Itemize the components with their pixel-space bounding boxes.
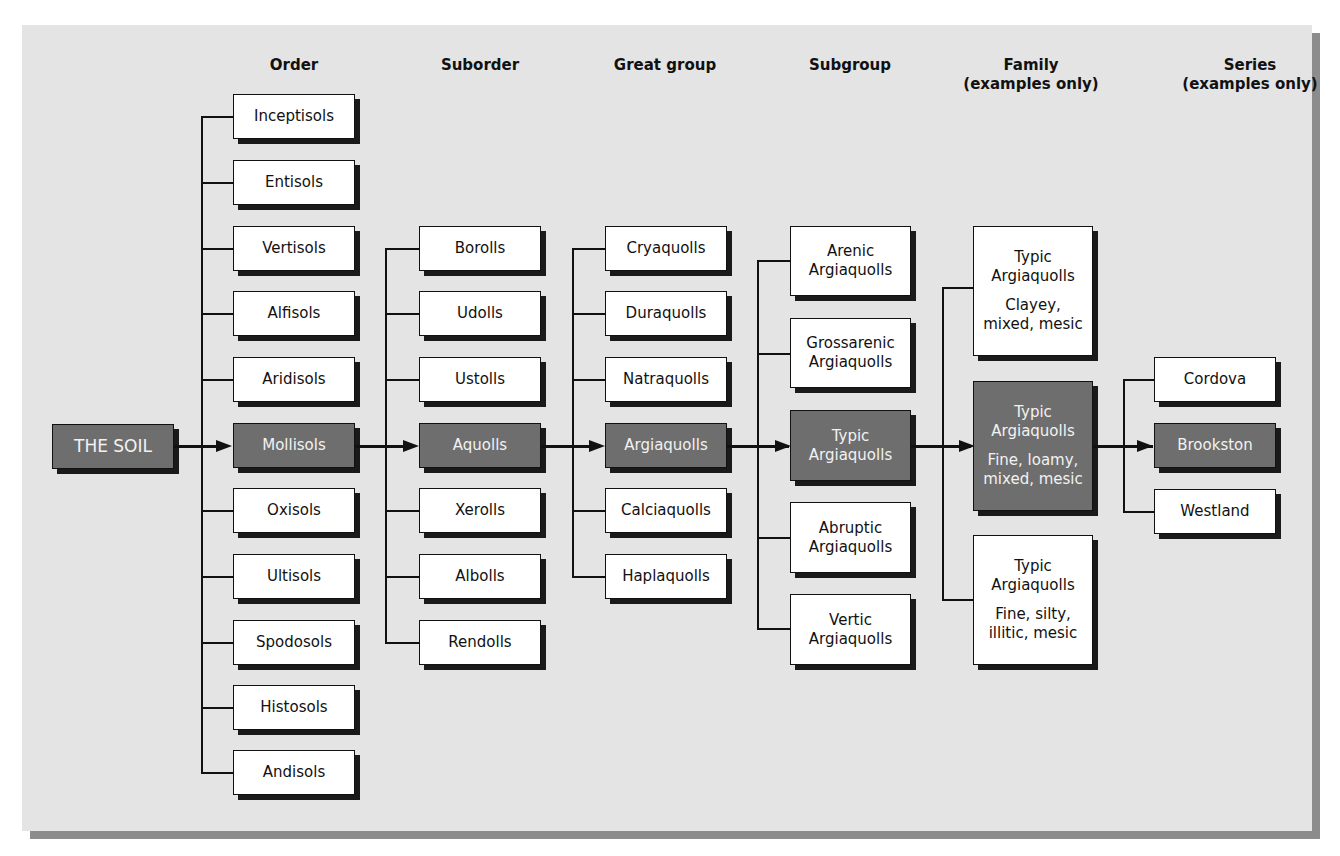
family-label-line1: Typic	[1014, 557, 1052, 576]
family-trunk-line	[942, 287, 944, 601]
header-family: Family (examples only)	[963, 56, 1098, 94]
series-branch	[1123, 379, 1154, 381]
order-branch	[201, 576, 233, 578]
suborder-node-udolls[interactable]: Udolls	[419, 291, 541, 336]
arrow-right-icon	[403, 440, 419, 452]
order-node-vertisols[interactable]: Vertisols	[233, 226, 355, 271]
arrow-right-icon	[1137, 440, 1153, 452]
series-node-westland[interactable]: Westland	[1154, 489, 1276, 534]
order-node-alfisols[interactable]: Alfisols	[233, 291, 355, 336]
order-node-ultisols[interactable]: Ultisols	[233, 554, 355, 599]
order-node-mollisols[interactable]: Mollisols	[233, 423, 355, 468]
greatgroup-node-duraquolls[interactable]: Duraquolls	[605, 291, 727, 336]
family-label-line4: illitic, mesic	[989, 624, 1078, 643]
subgroup-label-line1: Grossarenic	[806, 334, 894, 353]
connector-order-suborder	[355, 445, 405, 448]
series-trunk-line	[1123, 379, 1125, 512]
header-series: Series (examples only)	[1182, 56, 1317, 94]
order-branch	[201, 772, 233, 774]
suborder-node-ustolls[interactable]: Ustolls	[419, 357, 541, 402]
order-node-andisols[interactable]: Andisols	[233, 750, 355, 795]
greatgroup-branch	[572, 576, 605, 578]
order-node-entisols[interactable]: Entisols	[233, 160, 355, 205]
greatgroup-node-natraquolls[interactable]: Natraquolls	[605, 357, 727, 402]
subgroup-label-line2: Argiaquolls	[809, 630, 892, 649]
family-label-line2: Argiaquolls	[991, 422, 1074, 441]
greatgroup-node-haplaquolls[interactable]: Haplaquolls	[605, 554, 727, 599]
subgroup-node-grossarenic[interactable]: Grossarenic Argiaquolls	[790, 318, 911, 388]
header-order: Order	[270, 56, 318, 75]
suborder-node-xerolls[interactable]: Xerolls	[419, 488, 541, 533]
greatgroup-branch	[572, 510, 605, 512]
greatgroup-trunk-line	[572, 248, 574, 577]
order-branch	[201, 379, 233, 381]
arrow-right-icon	[589, 440, 605, 452]
order-branch	[201, 248, 233, 250]
suborder-branch	[385, 313, 419, 315]
series-branch	[1123, 511, 1154, 513]
family-label-line3: Fine, loamy,	[988, 451, 1079, 470]
suborder-branch	[385, 379, 419, 381]
suborder-node-rendolls[interactable]: Rendolls	[419, 620, 541, 665]
subgroup-branch	[757, 537, 790, 539]
family-branch	[942, 287, 973, 289]
order-node-oxisols[interactable]: Oxisols	[233, 488, 355, 533]
subgroup-label-line2: Argiaquolls	[809, 261, 892, 280]
family-node-clayey[interactable]: Typic Argiaquolls Clayey, mixed, mesic	[973, 226, 1093, 356]
greatgroup-node-cryaquolls[interactable]: Cryaquolls	[605, 226, 727, 271]
order-branch	[201, 642, 233, 644]
family-label-line1: Typic	[1014, 248, 1052, 267]
order-branch	[201, 182, 233, 184]
header-suborder: Suborder	[441, 56, 519, 75]
subgroup-node-vertic[interactable]: Vertic Argiaquolls	[790, 594, 911, 665]
greatgroup-node-argiaquolls[interactable]: Argiaquolls	[605, 423, 727, 468]
header-series-title: Series	[1182, 56, 1317, 75]
suborder-branch	[385, 642, 419, 644]
family-label-line3: Clayey,	[1005, 296, 1061, 315]
suborder-branch	[385, 576, 419, 578]
header-series-note: (examples only)	[1182, 75, 1317, 94]
suborder-branch	[385, 248, 419, 250]
connector-root-order	[174, 445, 218, 448]
connector-suborder-greatgroup	[541, 445, 591, 448]
header-family-title: Family	[963, 56, 1098, 75]
header-great-group: Great group	[614, 56, 716, 75]
greatgroup-branch	[572, 379, 605, 381]
subgroup-node-abruptic[interactable]: Abruptic Argiaquolls	[790, 502, 911, 573]
subgroup-label-line1: Typic	[832, 427, 870, 446]
subgroup-branch	[757, 353, 790, 355]
suborder-node-borolls[interactable]: Borolls	[419, 226, 541, 271]
subgroup-label-line2: Argiaquolls	[809, 538, 892, 557]
subgroup-branch	[757, 260, 790, 262]
header-subgroup: Subgroup	[809, 56, 891, 75]
arrow-right-icon	[775, 440, 791, 452]
greatgroup-branch	[572, 313, 605, 315]
greatgroup-branch	[572, 248, 605, 250]
subgroup-node-arenic[interactable]: Arenic Argiaquolls	[790, 226, 911, 296]
family-node-fine-loamy[interactable]: Typic Argiaquolls Fine, loamy, mixed, me…	[973, 381, 1093, 511]
order-branch	[201, 510, 233, 512]
subgroup-label-line2: Argiaquolls	[809, 353, 892, 372]
order-node-inceptisols[interactable]: Inceptisols	[233, 94, 355, 139]
root-node[interactable]: THE SOIL	[52, 424, 174, 469]
subgroup-label-line1: Vertic	[829, 611, 872, 630]
order-node-spodosols[interactable]: Spodosols	[233, 620, 355, 665]
header-family-note: (examples only)	[963, 75, 1098, 94]
order-branch	[201, 116, 233, 118]
series-node-brookston[interactable]: Brookston	[1154, 423, 1276, 468]
suborder-node-albolls[interactable]: Albolls	[419, 554, 541, 599]
family-node-fine-silty[interactable]: Typic Argiaquolls Fine, silty, illitic, …	[973, 535, 1093, 665]
greatgroup-node-calciaquolls[interactable]: Calciaquolls	[605, 488, 727, 533]
family-label-line4: mixed, mesic	[983, 470, 1083, 489]
family-label-line1: Typic	[1014, 403, 1052, 422]
subgroup-label-line1: Arenic	[827, 242, 874, 261]
suborder-trunk-line	[385, 248, 387, 643]
suborder-branch	[385, 510, 419, 512]
subgroup-label-line2: Argiaquolls	[809, 446, 892, 465]
order-node-histosols[interactable]: Histosols	[233, 685, 355, 730]
subgroup-node-typic[interactable]: Typic Argiaquolls	[790, 410, 911, 481]
series-node-cordova[interactable]: Cordova	[1154, 357, 1276, 402]
suborder-node-aquolls[interactable]: Aquolls	[419, 423, 541, 468]
subgroup-label-line1: Abruptic	[819, 519, 882, 538]
order-node-aridisols[interactable]: Aridisols	[233, 357, 355, 402]
